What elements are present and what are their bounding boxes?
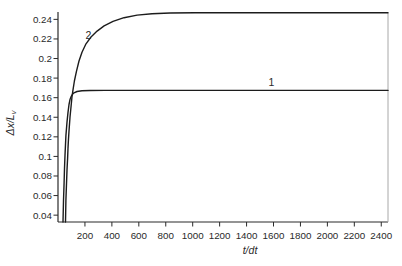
y-tick-label: 0.18 <box>33 73 53 84</box>
chart-figure: 2004006008001000120014001600180020002200… <box>0 0 402 266</box>
x-tick-label: 1800 <box>290 230 312 241</box>
curve-2-label: 2 <box>86 29 92 41</box>
y-axis-title: Δx/Lv <box>4 109 18 136</box>
x-tick-label: 1600 <box>263 230 285 241</box>
x-tick-label: 1000 <box>182 230 204 241</box>
curve-2-path <box>66 13 389 222</box>
y-tick-label: 0.04 <box>33 210 53 221</box>
x-tick-label: 2200 <box>343 230 365 241</box>
curve-1-label: 1 <box>269 76 275 88</box>
y-tick-label: 0.2 <box>38 53 52 64</box>
x-tick-label: 1200 <box>209 230 231 241</box>
y-tick-label: 0.14 <box>33 112 53 123</box>
x-tick-label: 2000 <box>316 230 338 241</box>
x-tick-label: 600 <box>131 230 148 241</box>
x-tick-label: 2400 <box>370 230 392 241</box>
x-tick-label: 800 <box>158 230 175 241</box>
y-tick-label: 0.08 <box>33 170 53 181</box>
x-tick-label: 400 <box>104 230 121 241</box>
y-tick-label: 0.22 <box>33 33 52 44</box>
x-axis-title: t/dt <box>243 244 259 256</box>
x-tick-label: 1400 <box>236 230 258 241</box>
y-tick-label: 0.06 <box>33 190 53 201</box>
y-tick-label: 0.24 <box>33 14 53 25</box>
y-tick-label: 0.16 <box>33 92 53 103</box>
x-tick-label: 200 <box>77 230 94 241</box>
line-chart: 2004006008001000120014001600180020002200… <box>0 0 402 266</box>
y-tick-label: 0.12 <box>33 131 52 142</box>
y-tick-label: 0.1 <box>38 151 52 162</box>
curve-1-path <box>63 90 388 222</box>
